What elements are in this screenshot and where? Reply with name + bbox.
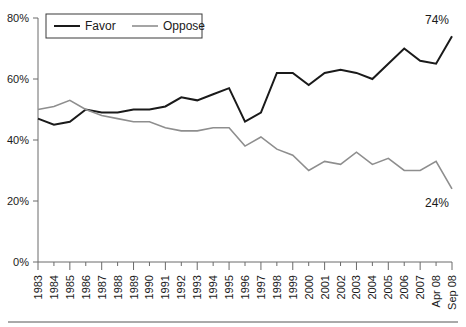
x-tick-label: Apr 08 xyxy=(430,275,442,307)
x-tick-label: 1996 xyxy=(239,275,251,299)
x-tick-label: 1995 xyxy=(223,275,235,299)
x-tick-label: 1999 xyxy=(287,275,299,299)
x-tick-label: 1997 xyxy=(255,275,267,299)
x-axis: 1983198419851986198719881989199019911992… xyxy=(32,262,458,310)
x-tick-label: 2004 xyxy=(366,275,378,299)
x-tick-label: 2003 xyxy=(350,275,362,299)
series-line-oppose xyxy=(38,100,452,188)
x-tick-label: 2000 xyxy=(303,275,315,299)
x-tick-label: 1986 xyxy=(80,275,92,299)
endpoint-label-oppose: 24% xyxy=(425,196,449,210)
x-tick-label: 2007 xyxy=(414,275,426,299)
x-tick-label: 1991 xyxy=(159,275,171,299)
y-tick-label: 80% xyxy=(7,12,29,24)
line-chart: 0%20%40%60%80% 1983198419851986198719881… xyxy=(0,0,466,327)
legend-label-oppose: Oppose xyxy=(163,19,205,33)
chart-legend: FavorOppose xyxy=(46,14,205,38)
y-axis: 0%20%40%60%80% xyxy=(7,12,38,268)
x-tick-label: 1990 xyxy=(143,275,155,299)
y-tick-label: 40% xyxy=(7,134,29,146)
x-tick-label: 1992 xyxy=(175,275,187,299)
x-tick-label: Sep 08 xyxy=(446,275,458,310)
x-tick-label: 1993 xyxy=(191,275,203,299)
series-line-favor xyxy=(38,36,452,124)
series-lines xyxy=(38,36,452,189)
endpoint-label-favor: 74% xyxy=(425,13,449,27)
x-tick-label: 1998 xyxy=(271,275,283,299)
x-tick-label: 1994 xyxy=(207,275,219,299)
chart-figure: 0%20%40%60%80% 1983198419851986198719881… xyxy=(0,0,466,327)
x-tick-label: 1987 xyxy=(96,275,108,299)
legend-label-favor: Favor xyxy=(85,19,116,33)
y-tick-label: 0% xyxy=(13,256,29,268)
x-tick-label: 1989 xyxy=(128,275,140,299)
x-tick-label: 2006 xyxy=(398,275,410,299)
y-tick-label: 20% xyxy=(7,195,29,207)
x-tick-label: 1985 xyxy=(64,275,76,299)
x-tick-label: 1988 xyxy=(112,275,124,299)
y-tick-label: 60% xyxy=(7,73,29,85)
x-tick-label: 1983 xyxy=(32,275,44,299)
x-tick-label: 2002 xyxy=(335,275,347,299)
x-tick-label: 1984 xyxy=(48,275,60,299)
endpoint-annotations: 74%24% xyxy=(425,13,449,210)
x-tick-label: 2005 xyxy=(382,275,394,299)
x-tick-label: 2001 xyxy=(319,275,331,299)
